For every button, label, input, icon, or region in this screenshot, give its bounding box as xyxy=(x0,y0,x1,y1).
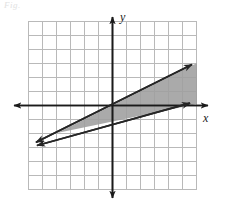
figure-container: Fig. xyxy=(0,0,225,211)
x-axis-label: x xyxy=(202,111,209,125)
y-axis-label: y xyxy=(119,10,126,24)
coordinate-plane-graph: y x xyxy=(0,0,225,211)
